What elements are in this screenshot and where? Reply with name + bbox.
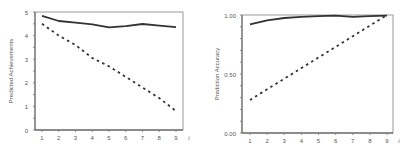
x-tick-label: 6 [124, 135, 128, 141]
x-tick-label: 7 [141, 135, 145, 141]
y-axis-label: Prediction Accuracy [214, 48, 220, 101]
plot-frame [35, 12, 183, 130]
x-tick-label: 4 [300, 138, 304, 144]
x-tick-label: 9 [174, 135, 178, 141]
y-axis-label: Predicted Achievements [8, 39, 14, 103]
y-tick-label: 1 [25, 104, 29, 110]
series-dashed-line [250, 15, 387, 100]
x-tick-label: 2 [265, 138, 269, 144]
x-tick-label: 3 [74, 135, 78, 141]
chart-prediction-accuracy: 0.000.501.00123456789iPrediction Accurac… [214, 13, 400, 145]
plot-frame [242, 15, 393, 133]
figure: 012345123456789iPredicted Achievements 0… [0, 0, 410, 152]
y-tick-label: 1.00 [224, 13, 236, 19]
x-tick-label: 5 [317, 138, 321, 144]
x-tick-label: 8 [158, 135, 162, 141]
x-tick-label: 1 [40, 135, 44, 141]
x-tick-label: 2 [57, 135, 61, 141]
y-tick-label: 3 [25, 57, 29, 63]
chart-predicted-achievements: 012345123456789iPredicted Achievements [8, 10, 190, 142]
x-tick-label: 3 [283, 138, 287, 144]
x-tick-label: 8 [368, 138, 372, 144]
x-axis-label: i [398, 138, 400, 144]
y-tick-label: 2 [25, 80, 29, 86]
x-axis-label: i [188, 135, 190, 141]
y-tick-label: 0.00 [224, 131, 236, 137]
x-tick-label: 5 [107, 135, 111, 141]
x-tick-label: 4 [91, 135, 95, 141]
x-tick-label: 7 [351, 138, 355, 144]
y-tick-label: 5 [25, 10, 29, 16]
x-tick-label: 9 [385, 138, 389, 144]
x-tick-label: 1 [248, 138, 252, 144]
series-solid-line [42, 16, 176, 27]
y-tick-label: 0.50 [224, 72, 236, 78]
y-tick-label: 0 [25, 128, 29, 134]
x-tick-label: 6 [334, 138, 338, 144]
series-dashed-line [42, 24, 176, 111]
y-tick-label: 4 [25, 33, 29, 39]
series-solid-line [250, 16, 387, 25]
